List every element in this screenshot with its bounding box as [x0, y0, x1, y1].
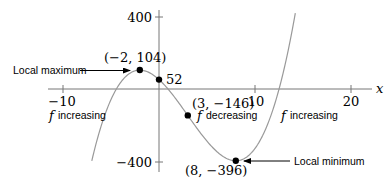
middle-decreasing-annotation: f decreasing — [196, 108, 258, 123]
y-intercept-point — [156, 76, 162, 82]
local-min-annotation: Local minimum — [294, 155, 365, 167]
svg-text:f: f — [48, 108, 56, 123]
x-axis-label: x — [376, 81, 384, 96]
local-min-label: (8, −396) — [185, 163, 247, 178]
local-max-point — [137, 67, 143, 73]
function-curve — [92, 13, 296, 161]
svg-text:increasing: increasing — [58, 109, 106, 121]
ytick-400-label: 400 — [127, 10, 152, 25]
y-intercept-label: 52 — [166, 72, 183, 87]
svg-text:decreasing: decreasing — [206, 109, 258, 121]
local-max-label: (−2, 104) — [104, 50, 166, 65]
inflection-point — [185, 112, 191, 118]
ytick-neg400-label: −400 — [116, 155, 152, 170]
xtick-20-label: 20 — [343, 94, 360, 109]
svg-text:f: f — [280, 108, 288, 123]
right-increasing-annotation: f increasing — [280, 108, 338, 123]
xtick-neg10-label: −10 — [48, 94, 75, 109]
local-max-annotation: Local maximum — [13, 64, 87, 76]
svg-text:increasing: increasing — [290, 109, 338, 121]
function-graph: 400 −400 −10 10 20 x (−2, 104) 52 (3, −1… — [0, 0, 392, 190]
left-increasing-annotation: f increasing — [48, 108, 106, 123]
